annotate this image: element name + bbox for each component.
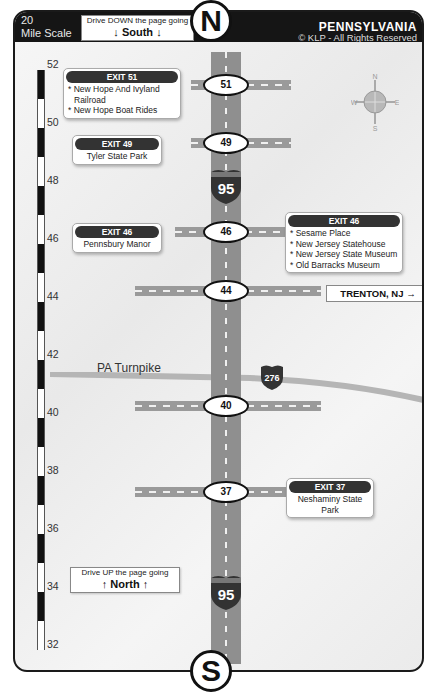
- svg-text:E: E: [395, 99, 399, 106]
- interstate-276-shield-icon: 276: [259, 364, 285, 390]
- drive-north-big: ↑ North ↑: [71, 578, 179, 590]
- callout-line: Pennsbury Manor: [73, 239, 161, 250]
- mile-label: 48: [47, 174, 59, 186]
- exit-51-marker[interactable]: 51: [203, 74, 249, 96]
- copyright: © KLP - All Rights Reserved: [298, 32, 417, 43]
- svg-text:95: 95: [218, 180, 235, 197]
- mile-label: 42: [47, 348, 59, 360]
- mile-label: 36: [47, 522, 59, 534]
- exit-44-marker[interactable]: 44: [203, 280, 249, 302]
- mile-label: 40: [47, 406, 59, 418]
- mile-label: 52: [47, 58, 59, 70]
- callout-line: Park: [287, 505, 373, 516]
- callout-line: * New Jersey Statehouse: [286, 239, 402, 250]
- exit-46-marker[interactable]: 46: [203, 221, 249, 243]
- exit-51-callout: EXIT 51 * New Hope And Ivyland Railroad …: [63, 68, 181, 119]
- compass-rose-icon: N S E W: [351, 72, 399, 132]
- callout-title: EXIT 49: [75, 138, 159, 150]
- callout-line: * Old Barracks Museum: [286, 260, 402, 271]
- mile-scale-title: 20 Mile Scale: [21, 14, 72, 40]
- drive-south-big: ↓ South ↓: [82, 26, 193, 38]
- exit-40-marker[interactable]: 40: [203, 395, 249, 417]
- north-marker: N: [190, 0, 232, 42]
- mile-label: 38: [47, 464, 59, 476]
- drive-south-sign: Drive DOWN the page going ↓ South ↓: [81, 15, 194, 41]
- exit-49-callout: EXIT 49 Tyler State Park: [72, 135, 162, 165]
- exit-46-east-callout: EXIT 46 * Sesame Place * New Jersey Stat…: [285, 212, 403, 273]
- callout-title: EXIT 37: [289, 481, 371, 493]
- callout-line: Tyler State Park: [73, 151, 161, 162]
- mile-label: 46: [47, 232, 59, 244]
- interstate-95-shield-icon: 95: [208, 168, 244, 204]
- callout-title: EXIT 46: [288, 215, 400, 227]
- mile-label: 44: [47, 290, 59, 302]
- scale-label: Mile Scale: [21, 27, 72, 40]
- turnpike-label: PA Turnpike: [97, 361, 161, 375]
- mile-label: 50: [47, 116, 59, 128]
- svg-text:276: 276: [264, 373, 279, 383]
- map-frame: 20 Mile Scale Drive DOWN the page going …: [13, 10, 424, 672]
- callout-line: Railroad: [64, 95, 180, 106]
- exit-37-callout: EXIT 37 Neshaminy State Park: [286, 478, 374, 518]
- south-marker: S: [190, 650, 232, 692]
- drive-north-sign: Drive UP the page going ↑ North ↑: [70, 567, 180, 593]
- exit-46-west-callout: EXIT 46 Pennsbury Manor: [72, 223, 162, 253]
- callout-line: * New Jersey State Museum: [286, 249, 402, 260]
- interstate-95-shield-icon: 95: [208, 574, 244, 610]
- mile-ruler: [37, 70, 45, 650]
- exit-49-marker[interactable]: 49: [203, 132, 249, 154]
- mile-label: 32: [47, 638, 59, 650]
- callout-line: * New Hope And Ivyland: [64, 84, 180, 95]
- callout-title: EXIT 51: [66, 71, 178, 83]
- callout-title: EXIT 46: [75, 226, 159, 238]
- svg-text:S: S: [373, 125, 378, 132]
- callout-line: Neshaminy State: [287, 494, 373, 505]
- svg-text:W: W: [351, 99, 358, 106]
- svg-text:95: 95: [218, 586, 235, 603]
- drive-south-small: Drive DOWN the page going: [82, 16, 193, 26]
- exit-37-marker[interactable]: 37: [203, 481, 249, 503]
- callout-line: * Sesame Place: [286, 228, 402, 239]
- callout-line: * New Hope Boat Rides: [64, 105, 180, 116]
- trenton-nj-sign: TRENTON, NJ →: [326, 285, 424, 302]
- mile-label: 34: [47, 580, 59, 592]
- svg-text:N: N: [372, 73, 377, 80]
- drive-north-small: Drive UP the page going: [71, 568, 179, 578]
- scale-value: 20: [21, 14, 72, 27]
